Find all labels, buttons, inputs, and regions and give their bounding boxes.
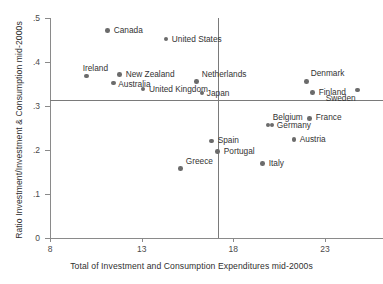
data-point-label: Greece <box>186 157 213 166</box>
data-point-marker[interactable] <box>260 161 265 166</box>
x-tick-label: 23 <box>310 245 340 254</box>
data-point-label: Ireland <box>83 64 108 73</box>
data-point-marker[interactable] <box>178 166 183 171</box>
y-axis-title: Ratio Investment/Investment & Consumptio… <box>14 5 24 255</box>
y-tick-label: 0 <box>24 234 40 243</box>
x-tick-mark <box>325 238 326 242</box>
data-point-marker[interactable] <box>200 91 205 96</box>
x-tick-label: 8 <box>35 245 65 254</box>
y-tick-mark <box>45 18 50 19</box>
data-point-label: New Zealand <box>126 70 175 79</box>
data-point-marker[interactable] <box>117 72 122 77</box>
x-axis-title: Total of Investment and Consumption Expe… <box>0 261 383 271</box>
data-point-label: Japan <box>207 89 230 98</box>
data-point-label: Denmark <box>311 69 345 78</box>
y-tick-label: .1 <box>24 190 40 199</box>
data-point-marker[interactable] <box>194 79 199 84</box>
y-tick-label: .5 <box>24 14 40 23</box>
data-point-marker[interactable] <box>164 37 169 42</box>
data-point-label: Australia <box>118 80 150 89</box>
data-point-label: Portugal <box>224 147 255 156</box>
data-point-marker[interactable] <box>84 74 89 79</box>
y-tick-mark <box>45 150 50 151</box>
data-point-marker[interactable] <box>304 79 309 84</box>
data-point-label: Spain <box>218 136 239 145</box>
data-point-label: France <box>316 113 342 122</box>
data-point-label: Italy <box>269 159 284 168</box>
x-tick-mark <box>142 238 143 242</box>
data-point-marker[interactable] <box>111 81 116 86</box>
data-point-marker[interactable] <box>270 123 275 128</box>
x-tick-mark <box>50 238 51 242</box>
y-tick-mark <box>45 106 50 107</box>
x-tick-label: 13 <box>127 245 157 254</box>
vertical-reference-line <box>218 18 219 238</box>
data-point-marker[interactable] <box>209 139 214 144</box>
x-tick-mark <box>233 238 234 242</box>
data-point-marker[interactable] <box>215 149 220 154</box>
y-tick-mark <box>45 194 50 195</box>
data-point-label: Netherlands <box>202 70 247 79</box>
data-point-marker[interactable] <box>355 88 360 93</box>
data-point-marker[interactable] <box>141 87 146 92</box>
data-point-marker[interactable] <box>310 90 315 95</box>
data-point-label: United States <box>172 35 222 44</box>
x-axis-line <box>50 238 383 239</box>
data-point-marker[interactable] <box>105 28 110 33</box>
y-tick-label: .3 <box>24 102 40 111</box>
y-tick-label: .4 <box>24 58 40 67</box>
y-axis-line <box>50 18 51 238</box>
data-point-marker[interactable] <box>292 137 297 142</box>
data-point-marker[interactable] <box>307 116 312 121</box>
data-point-label: Austria <box>300 135 326 144</box>
data-point-label: Canada <box>114 26 143 35</box>
scatter-plot-figure: 0.1.2.3.4.5 8131823 CanadaUnited StatesI… <box>0 0 383 284</box>
data-point-label: Germany <box>277 121 311 130</box>
y-tick-mark <box>45 62 50 63</box>
x-tick-label: 18 <box>218 245 248 254</box>
y-tick-label: .2 <box>24 146 40 155</box>
data-point-label: Sweden <box>326 94 356 103</box>
